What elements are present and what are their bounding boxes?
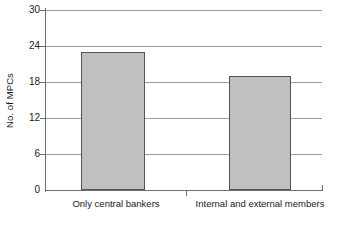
bar-internal-and-external-members[interactable] (229, 76, 291, 190)
x-axis-line (45, 190, 323, 191)
x-axis-label-only-central-bankers: Only central bankers (45, 198, 187, 210)
gridline-24 (45, 46, 322, 47)
y-tick-label-18: 18 (14, 77, 40, 87)
y-tick-label-30: 30 (14, 5, 40, 15)
bar-chart: No. of MPCs 30 24 18 12 6 0 Only central… (0, 0, 338, 231)
x-axis-label-internal-and-external-members: Internal and external members (186, 198, 334, 210)
y-axis-title: No. of MPCs (0, 0, 18, 200)
gridline-30 (45, 10, 322, 11)
bar-only-central-bankers[interactable] (81, 52, 145, 190)
y-axis-line (45, 8, 46, 192)
y-tick-label-0: 0 (14, 185, 40, 195)
x-axis-end-tick (322, 185, 323, 191)
x-axis-category-tick (186, 190, 187, 196)
y-tick-label-12: 12 (14, 113, 40, 123)
y-tick-label-6: 6 (14, 149, 40, 159)
cutoff-caption (45, 222, 295, 228)
y-tick-label-24: 24 (14, 41, 40, 51)
y-axis-title-text: No. of MPCs (4, 73, 15, 128)
